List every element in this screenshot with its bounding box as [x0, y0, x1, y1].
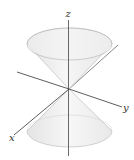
double-cone-figure: z y x — [0, 0, 134, 160]
upper-cone-rim — [27, 28, 112, 60]
double-cone-diagram: z y x — [0, 0, 134, 160]
y-axis-label: y — [122, 102, 129, 113]
x-axis-label: x — [9, 132, 15, 143]
lower-cone — [27, 89, 112, 147]
z-axis-label: z — [65, 8, 72, 19]
